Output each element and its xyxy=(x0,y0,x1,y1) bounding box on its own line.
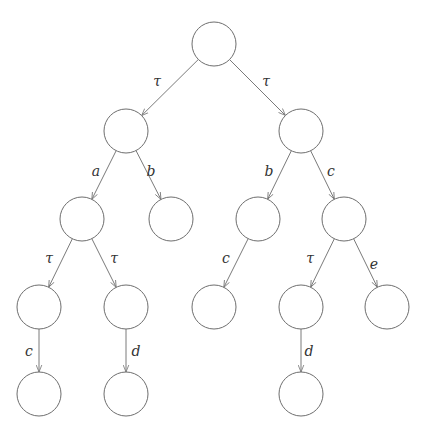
edge-label: c xyxy=(25,343,33,359)
edge-arrow xyxy=(311,239,335,287)
state-node xyxy=(104,109,148,153)
edge-label: b xyxy=(265,163,274,179)
edge-label: a xyxy=(92,163,100,179)
edge-label: e xyxy=(370,256,378,272)
edge-label: c xyxy=(327,163,335,179)
state-node xyxy=(365,285,409,329)
state-node xyxy=(279,109,323,153)
state-node xyxy=(279,372,323,416)
edge-label: τ xyxy=(306,250,314,266)
edge-arrow xyxy=(230,60,286,116)
edge-label: b xyxy=(147,163,156,179)
state-node xyxy=(17,285,61,329)
state-node xyxy=(192,285,236,329)
state-node xyxy=(192,22,236,66)
state-node xyxy=(60,197,104,241)
state-node xyxy=(322,197,366,241)
edge-label: τ xyxy=(262,73,270,89)
edge-arrow xyxy=(142,59,199,115)
state-node xyxy=(279,285,323,329)
state-node xyxy=(149,197,193,241)
nodes xyxy=(17,22,409,416)
transition-tree-diagram: ττabbcττcτecdd xyxy=(0,0,431,438)
state-node xyxy=(104,285,148,329)
state-node xyxy=(236,197,280,241)
state-node xyxy=(104,372,148,416)
edge-label: d xyxy=(305,343,314,359)
state-node xyxy=(17,372,61,416)
edge-label: c xyxy=(222,250,230,266)
edge-label: d xyxy=(132,343,141,359)
edge-label: τ xyxy=(153,73,161,89)
edge-label: τ xyxy=(45,250,53,266)
edge-label: τ xyxy=(110,250,118,266)
